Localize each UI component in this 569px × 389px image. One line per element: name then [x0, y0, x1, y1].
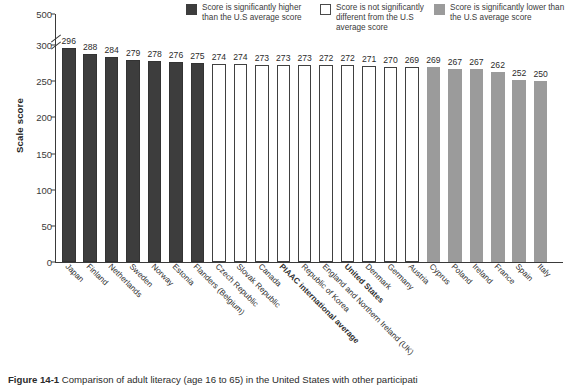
x-axis-label-japan: Japan — [63, 262, 85, 284]
bar-value-label: 279 — [126, 48, 140, 58]
bar-value-label: 274 — [233, 52, 247, 62]
bar-value-label: 272 — [319, 53, 333, 63]
bar-value-label: 271 — [362, 54, 376, 64]
bar-cyprus — [427, 67, 441, 262]
bar-canada — [255, 65, 269, 262]
bar-spain — [512, 80, 526, 262]
bar-norway — [148, 61, 162, 262]
bar-estonia — [169, 62, 183, 262]
bar-republic-of-korea — [298, 65, 312, 262]
bar-germany — [384, 67, 398, 262]
bar-value-label: 276 — [169, 50, 183, 60]
x-axis-label-spain: Spain — [514, 262, 535, 283]
bar-value-label: 273 — [298, 53, 312, 63]
bar-denmark — [362, 66, 376, 262]
x-axis-label-ireland: Ireland — [471, 262, 495, 286]
bar-value-label: 278 — [147, 49, 161, 59]
bar-sweden — [126, 60, 140, 262]
x-axis-category-labels: JapanFinlandNetherlandsSwedenNorwayEston… — [0, 262, 569, 362]
bar-value-label: 274 — [212, 52, 226, 62]
bar-value-label: 267 — [448, 57, 462, 67]
x-axis-label-france: France — [492, 262, 516, 286]
figure-caption: Figure 14-1 Comparison of adult literacy… — [8, 374, 568, 386]
bar-value-label: 288 — [83, 42, 97, 52]
figure-caption-number: Figure 14-1 — [8, 374, 59, 385]
bar-japan — [62, 48, 76, 262]
figure-caption-text: Comparison of adult literacy (age 16 to … — [62, 374, 418, 385]
bar-value-label: 273 — [255, 53, 269, 63]
x-axis-label-italy: Italy — [535, 262, 552, 279]
bar-czech-republic — [212, 64, 226, 262]
bar-france — [491, 72, 505, 262]
bar-netherlands — [105, 57, 119, 262]
bar-slovak-republic — [234, 64, 248, 262]
bar-value-label: 269 — [426, 55, 440, 65]
bar-value-label: 273 — [276, 53, 290, 63]
bar-finland — [83, 54, 97, 262]
bar-value-label: 272 — [340, 53, 354, 63]
bar-poland — [448, 69, 462, 262]
bar-value-label: 250 — [533, 69, 547, 79]
plot-area: Scale score 050100150200250300500 296288… — [0, 0, 569, 300]
x-axis-label-cyprus: Cyprus — [428, 262, 452, 286]
bar-value-label: 270 — [383, 55, 397, 65]
x-axis-label-finland: Finland — [85, 262, 110, 287]
bar-value-label: 275 — [190, 51, 204, 61]
bar-value-label: 252 — [512, 68, 526, 78]
bar-value-label: 269 — [405, 55, 419, 65]
bar-value-label: 267 — [469, 57, 483, 67]
bar-austria — [405, 67, 419, 262]
bar-value-label: 262 — [491, 60, 505, 70]
figure-root: Score is significantly higher than the U… — [0, 0, 569, 389]
bar-united-states — [341, 65, 355, 262]
bar-piaac-international-average — [277, 65, 291, 262]
bar-series: 2962882842792782762752742742732732732722… — [0, 0, 569, 300]
bar-england-and-northern-ireland-uk — [319, 65, 333, 262]
x-axis-label-poland: Poland — [449, 262, 473, 286]
bar-value-label: 296 — [62, 36, 76, 46]
bar-value-label: 284 — [104, 45, 118, 55]
bar-flanders-belgium — [191, 63, 205, 262]
bar-ireland — [470, 69, 484, 262]
bar-italy — [534, 81, 548, 262]
